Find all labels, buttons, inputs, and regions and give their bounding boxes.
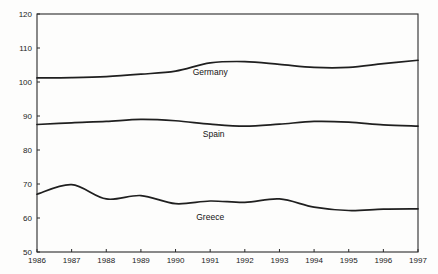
x-tick-label: 1991 [201, 256, 219, 265]
x-tick-label: 1988 [97, 256, 115, 265]
series-lines-group [37, 60, 418, 210]
series-line-greece [37, 185, 418, 211]
y-axis-tick-labels: 5060708090100110120 [19, 10, 33, 257]
chart-canvas: 5060708090100110120 19861987198819891990… [0, 0, 438, 274]
y-tick-label: 110 [19, 44, 32, 53]
x-tick-label: 1996 [374, 256, 392, 265]
x-tick-label: 1990 [167, 256, 185, 265]
series-inline-labels: GermanySpainGreece [193, 67, 229, 222]
series-label-spain: Spain [203, 129, 225, 139]
y-tick-label: 60 [23, 214, 32, 223]
series-label-germany: Germany [193, 67, 229, 77]
x-tick-label: 1989 [132, 256, 150, 265]
x-tick-label: 1992 [236, 256, 254, 265]
plot-area-frame [37, 14, 418, 252]
y-tick-label: 120 [19, 10, 33, 19]
x-tick-label: 1993 [271, 256, 289, 265]
line-chart: 5060708090100110120 19861987198819891990… [0, 0, 438, 274]
y-tick-label: 70 [23, 180, 32, 189]
x-tick-label: 1995 [340, 256, 358, 265]
x-tick-label: 1994 [305, 256, 323, 265]
y-tick-label: 100 [19, 78, 33, 87]
y-tick-label: 80 [23, 146, 32, 155]
x-axis-tick-labels: 1986198719881989199019911992199319941995… [28, 256, 427, 265]
y-tick-label: 90 [23, 112, 32, 121]
x-tick-label: 1986 [28, 256, 46, 265]
x-tick-label: 1997 [409, 256, 427, 265]
series-label-greece: Greece [196, 212, 224, 222]
series-line-spain [37, 119, 418, 126]
x-tick-label: 1987 [63, 256, 81, 265]
